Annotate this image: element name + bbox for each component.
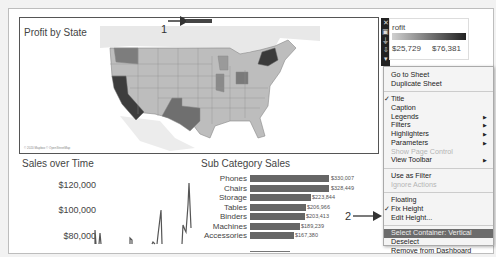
menu-item-ignore-actions: Ignore Actions [384, 181, 493, 190]
submenu-arrow-icon: ▶ [483, 139, 487, 148]
bar[interactable] [250, 194, 311, 201]
go-to-sheet-icon[interactable]: ▣ [382, 27, 389, 36]
menu-item-duplicate-sheet[interactable]: Duplicate Sheet [384, 80, 493, 89]
profit-legend[interactable]: rofit $25,729 $76,381 [389, 18, 469, 60]
bar-value: $203,413 [306, 212, 329, 221]
annotation-label-2: 2 [345, 210, 351, 222]
submenu-arrow-icon: ▶ [483, 121, 487, 130]
annotation-arrow-2 [353, 211, 383, 221]
menu-separator [384, 225, 493, 226]
bar-value: $223,844 [312, 193, 335, 202]
bar[interactable] [250, 185, 329, 192]
legend-max: $76,381 [432, 44, 461, 53]
bar-label: Chairs [224, 184, 247, 193]
checkmark-icon: ✓ [384, 95, 390, 104]
menu-separator [384, 168, 493, 169]
bar-value: $330,007 [331, 174, 354, 183]
menu-separator [384, 192, 493, 193]
bar-value: $167,380 [295, 231, 318, 240]
annotation-label-1: 1 [161, 23, 167, 35]
scroll-indicator [250, 251, 290, 252]
bar[interactable] [250, 175, 329, 182]
bar-label: Machines [213, 222, 247, 231]
menu-item-edit-height[interactable]: Edit Height... [384, 214, 493, 223]
close-icon[interactable]: ✕ [383, 18, 389, 27]
bar-label: Tables [224, 203, 247, 212]
container-drag-handle[interactable] [186, 19, 212, 23]
menu-item-remove-from-dashboard[interactable]: Remove from Dashboard [384, 247, 493, 256]
legend-min: $25,729 [392, 44, 421, 53]
bar-row-accessories[interactable]: Accessories $167,380 [195, 231, 375, 240]
y-tick-100000: $100,000 [26, 205, 96, 215]
bar[interactable] [250, 232, 294, 239]
bar-label: Phones [220, 174, 247, 183]
submenu-arrow-icon: ▶ [483, 130, 487, 139]
map-title: Profit by State [24, 27, 87, 38]
bar-row-phones[interactable]: Phones $330,007 [195, 174, 375, 183]
submenu-arrow-icon: ▶ [483, 156, 487, 165]
bar-value: $206,966 [307, 203, 330, 212]
profit-by-state-zone[interactable]: Profit by State © 2020 Mapbox © OpenSt [19, 17, 379, 154]
bar-label: Storage [219, 193, 247, 202]
bar-label: Binders [220, 212, 247, 221]
sales-line-chart[interactable] [90, 180, 200, 246]
us-map[interactable] [100, 26, 320, 151]
map-attribution: © 2020 Mapbox © OpenStreetMap [24, 146, 70, 150]
y-tick-80000: $80,000 [26, 231, 96, 241]
bar-value: $189,239 [301, 222, 324, 231]
bar[interactable] [250, 204, 306, 211]
legend-color-ramp [392, 33, 466, 40]
sub-category-sales-title: Sub Category Sales [201, 158, 290, 169]
menu-item-view-toolbar[interactable]: View Toolbar▶ [384, 156, 493, 165]
y-tick-120000: $120,000 [26, 180, 96, 190]
zone-context-menu: Go to Sheet Duplicate Sheet ✓Title Capti… [383, 66, 494, 246]
bar-label: Accessories [204, 231, 247, 240]
legend-title: rofit [392, 23, 405, 32]
menu-separator [384, 91, 493, 92]
sales-over-time-title: Sales over Time [22, 158, 94, 169]
more-options-icon[interactable]: ▾ [384, 54, 388, 63]
bar[interactable] [250, 223, 300, 230]
checkmark-icon: ✓ [384, 205, 390, 214]
drag-icon[interactable]: ⇩ [383, 45, 389, 54]
bar[interactable] [250, 213, 305, 220]
bar-row-storage[interactable]: Storage $223,844 [195, 193, 375, 202]
filter-icon[interactable]: ⏚ [382, 36, 389, 45]
bar-value: $328,449 [331, 184, 354, 193]
submenu-arrow-icon: ▶ [483, 113, 487, 122]
bar-row-machines[interactable]: Machines $189,239 [195, 222, 375, 231]
bar-row-chairs[interactable]: Chairs $328,449 [195, 184, 375, 193]
